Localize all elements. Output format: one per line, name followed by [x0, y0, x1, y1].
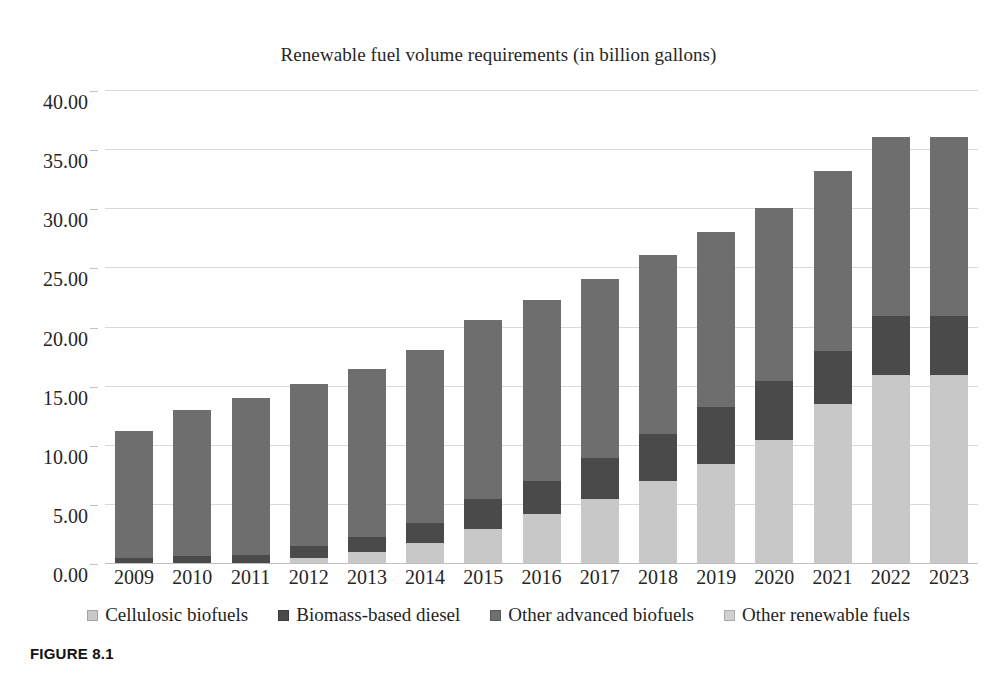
- bar-segment[interactable]: [639, 434, 677, 481]
- bar-column[interactable]: [221, 91, 279, 564]
- bar-stack[interactable]: [173, 410, 211, 564]
- bar-segment[interactable]: [639, 481, 677, 564]
- bar-segment[interactable]: [348, 537, 386, 552]
- bar-segment[interactable]: [523, 481, 561, 514]
- bar-segment[interactable]: [697, 464, 735, 565]
- bar-stack[interactable]: [872, 137, 910, 564]
- bar-segment[interactable]: [232, 398, 270, 554]
- legend-item[interactable]: Biomass-based diesel: [278, 604, 460, 626]
- bar-column[interactable]: [163, 91, 221, 564]
- bar-column[interactable]: [338, 91, 396, 564]
- bar-segment[interactable]: [697, 407, 735, 463]
- bar-segment[interactable]: [348, 369, 386, 537]
- bar-column[interactable]: [803, 91, 861, 564]
- bar-column[interactable]: [745, 91, 803, 564]
- bar-stack[interactable]: [930, 137, 968, 564]
- bar-segment[interactable]: [814, 171, 852, 351]
- bar-stack[interactable]: [581, 279, 619, 564]
- x-axis-tick-label: 2019: [687, 566, 745, 596]
- x-axis-tick-label: 2010: [163, 566, 221, 596]
- y-axis-tick-mark: [90, 387, 98, 388]
- bar-segment[interactable]: [581, 458, 619, 499]
- bar-stack[interactable]: [697, 232, 735, 564]
- legend-item[interactable]: Other renewable fuels: [724, 604, 910, 626]
- x-axis-tick-label: 2020: [745, 566, 803, 596]
- legend-swatch-icon: [278, 610, 289, 621]
- bar-column[interactable]: [920, 91, 978, 564]
- bar-stack[interactable]: [290, 384, 328, 564]
- bar-segment[interactable]: [697, 232, 735, 408]
- bar-segment[interactable]: [755, 440, 793, 564]
- legend-swatch-icon: [490, 610, 501, 621]
- y-axis-tick-mark: [90, 91, 98, 92]
- bar-segment[interactable]: [930, 375, 968, 564]
- bar-stack[interactable]: [814, 171, 852, 564]
- bar-column[interactable]: [629, 91, 687, 564]
- bar-group: [105, 91, 978, 564]
- legend-label: Cellulosic biofuels: [105, 604, 248, 626]
- legend-label: Other advanced biofuels: [508, 604, 694, 626]
- bar-segment[interactable]: [115, 431, 153, 558]
- bar-column[interactable]: [105, 91, 163, 564]
- x-axis-tick-label: 2013: [338, 566, 396, 596]
- bar-segment[interactable]: [755, 381, 793, 440]
- bar-stack[interactable]: [755, 208, 793, 564]
- x-axis-tick-label: 2022: [862, 566, 920, 596]
- y-axis-tick-mark: [90, 505, 98, 506]
- bar-segment[interactable]: [464, 320, 502, 499]
- bar-segment[interactable]: [872, 137, 910, 316]
- bar-column[interactable]: [396, 91, 454, 564]
- y-axis-tick-mark: [90, 446, 98, 447]
- bar-column[interactable]: [687, 91, 745, 564]
- bar-segment[interactable]: [406, 543, 444, 564]
- bar-stack[interactable]: [406, 350, 444, 564]
- bar-segment[interactable]: [872, 316, 910, 375]
- x-axis-tick-label: 2023: [920, 566, 978, 596]
- bar-column[interactable]: [571, 91, 629, 564]
- bar-segment[interactable]: [173, 410, 211, 556]
- figure-container: Renewable fuel volume requirements (in b…: [0, 0, 997, 676]
- bar-segment[interactable]: [814, 404, 852, 564]
- x-axis-tick-label: 2018: [629, 566, 687, 596]
- bar-segment[interactable]: [290, 546, 328, 558]
- bar-segment[interactable]: [639, 255, 677, 434]
- bar-stack[interactable]: [523, 300, 561, 564]
- legend-item[interactable]: Other advanced biofuels: [490, 604, 694, 626]
- bar-column[interactable]: [454, 91, 512, 564]
- bar-segment[interactable]: [406, 350, 444, 523]
- bar-segment[interactable]: [872, 375, 910, 564]
- bar-segment[interactable]: [930, 137, 968, 316]
- bar-segment[interactable]: [581, 499, 619, 564]
- legend-label: Other renewable fuels: [742, 604, 910, 626]
- chart-title: Renewable fuel volume requirements (in b…: [0, 44, 997, 66]
- y-axis-tick-mark: [90, 564, 98, 565]
- bar-segment[interactable]: [290, 384, 328, 546]
- y-axis-tick-mark: [90, 328, 98, 329]
- x-axis-tick-label: 2016: [512, 566, 570, 596]
- bar-segment[interactable]: [930, 316, 968, 375]
- bar-segment[interactable]: [814, 351, 852, 404]
- bar-segment[interactable]: [755, 208, 793, 381]
- x-axis-line: [105, 563, 978, 564]
- bar-column[interactable]: [512, 91, 570, 564]
- y-axis-tick-mark: [90, 209, 98, 210]
- bar-segment[interactable]: [464, 529, 502, 564]
- bar-segment[interactable]: [523, 514, 561, 564]
- bar-column[interactable]: [862, 91, 920, 564]
- bar-stack[interactable]: [232, 398, 270, 564]
- legend-item[interactable]: Cellulosic biofuels: [87, 604, 248, 626]
- x-axis-tick-label: 2021: [803, 566, 861, 596]
- bar-column[interactable]: [280, 91, 338, 564]
- bar-segment[interactable]: [581, 279, 619, 458]
- bar-stack[interactable]: [464, 320, 502, 564]
- legend-swatch-icon: [724, 610, 735, 621]
- bar-segment[interactable]: [523, 300, 561, 481]
- bar-stack[interactable]: [639, 255, 677, 564]
- y-axis-tick-mark: [90, 150, 98, 151]
- bar-segment[interactable]: [464, 499, 502, 529]
- x-axis-tick-label: 2011: [221, 566, 279, 596]
- chart-legend: Cellulosic biofuelsBiomass-based dieselO…: [0, 601, 997, 629]
- bar-stack[interactable]: [348, 369, 386, 564]
- bar-stack[interactable]: [115, 431, 153, 564]
- bar-segment[interactable]: [406, 523, 444, 544]
